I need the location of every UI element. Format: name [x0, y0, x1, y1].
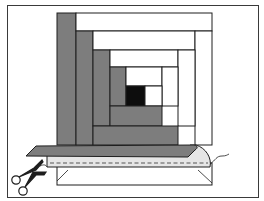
- strip-dark-bottom-1: [110, 106, 162, 126]
- strip-center: [126, 86, 145, 106]
- strip-dark-3: [93, 50, 110, 126]
- strip-light-right-3: [162, 67, 178, 106]
- strip-light-3: [110, 50, 178, 67]
- scissors-icon: [12, 160, 47, 195]
- folded-dark-strip: [26, 145, 197, 157]
- strip-dark-2: [76, 31, 93, 145]
- strip-light-1: [76, 13, 212, 31]
- strip-light-5: [145, 86, 162, 106]
- strip-dark-4: [110, 67, 126, 106]
- quilt-diagram: [0, 0, 264, 201]
- strip-light-2: [93, 31, 195, 50]
- strip-light-right-1: [195, 31, 212, 145]
- strip-light-right-2: [178, 50, 195, 126]
- strip-dark-1: [57, 13, 76, 145]
- log-cabin-block: [57, 13, 212, 145]
- strip-light-4: [126, 67, 162, 86]
- strip-dark-bottom-2: [93, 126, 178, 145]
- diagram-canvas: [0, 0, 264, 201]
- thread-icon: [210, 154, 229, 164]
